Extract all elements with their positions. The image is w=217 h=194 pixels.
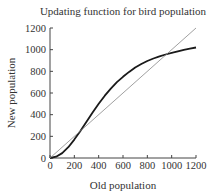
chart: Updating function for bird population 02… <box>0 0 217 194</box>
axes: 0200400600800100012000200400600800100012… <box>25 23 207 172</box>
diagonal-line <box>50 28 196 158</box>
x-tick-label: 200 <box>66 160 82 171</box>
y-tick-label: 600 <box>30 88 46 99</box>
chart-title: Updating function for bird population <box>40 5 207 17</box>
x-tick-label: 1000 <box>161 160 182 171</box>
y-tick-label: 400 <box>30 109 46 120</box>
y-axis-label: New population <box>5 57 17 128</box>
x-tick-label: 800 <box>139 160 155 171</box>
series <box>50 28 196 158</box>
x-tick-label: 600 <box>115 160 131 171</box>
y-tick-label: 800 <box>30 66 46 77</box>
y-tick-label: 200 <box>30 131 46 142</box>
updating-function-curve <box>50 48 196 159</box>
x-tick-label: 400 <box>91 160 107 171</box>
y-tick-label: 0 <box>41 153 46 164</box>
x-tick-label: 0 <box>47 160 52 171</box>
y-tick-label: 1000 <box>25 44 46 55</box>
x-axis-label: Old population <box>90 179 157 191</box>
x-tick-label: 1200 <box>186 160 207 171</box>
y-tick-label: 1200 <box>25 23 46 34</box>
